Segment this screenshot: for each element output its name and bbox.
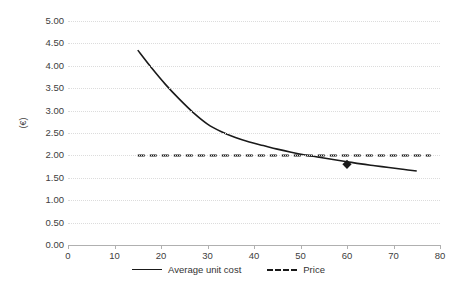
gridline (68, 178, 440, 179)
x-axis-tick-label: 60 (332, 251, 362, 261)
plot-area (68, 21, 440, 245)
y-axis-tick-label: 0.00 (18, 240, 64, 250)
x-axis-tick-label: 80 (425, 251, 455, 261)
x-axis-tick-mark (301, 245, 302, 249)
gridline (68, 155, 440, 156)
gridline (68, 21, 440, 22)
y-axis-tick-label: 1.00 (18, 195, 64, 205)
gridline (68, 66, 440, 67)
legend-swatch (132, 269, 162, 270)
y-axis-tick-label: 4.00 (18, 61, 64, 71)
x-axis-tick-label: 0 (53, 251, 83, 261)
x-axis-tick-mark (440, 245, 441, 249)
y-axis-tick-labels: 0.000.501.001.502.002.503.003.504.004.50… (0, 0, 64, 289)
gridline (68, 43, 440, 44)
x-axis-tick-mark (115, 245, 116, 249)
x-axis-tick-label: 50 (286, 251, 316, 261)
x-axis-tick-label: 10 (100, 251, 130, 261)
legend-label: Average unit cost (168, 264, 241, 275)
legend-label: Price (303, 264, 325, 275)
y-axis-tick-label: 3.00 (18, 106, 64, 116)
x-axis-tick-mark (161, 245, 162, 249)
gridline (68, 223, 440, 224)
y-axis-tick-label: 2.00 (18, 150, 64, 160)
chart-container: (€) 0.000.501.001.502.002.503.003.504.00… (0, 0, 457, 289)
y-axis-tick-label: 1.50 (18, 173, 64, 183)
x-axis-tick-label: 30 (193, 251, 223, 261)
y-axis-tick-label: 2.50 (18, 128, 64, 138)
legend-entry: Average unit cost (132, 264, 241, 275)
gridline (68, 111, 440, 112)
legend-swatch (267, 269, 297, 271)
legend-entry: Price (267, 264, 325, 275)
x-axis-tick-mark (347, 245, 348, 249)
y-axis-tick-label: 5.00 (18, 16, 64, 26)
x-axis-tick-mark (68, 245, 69, 249)
x-axis-tick-mark (208, 245, 209, 249)
gridline (68, 200, 440, 201)
gridline (68, 88, 440, 89)
y-axis-tick-label: 4.50 (18, 38, 64, 48)
x-axis-tick-mark (394, 245, 395, 249)
x-axis-tick-mark (254, 245, 255, 249)
chart-legend: Average unit costPrice (0, 264, 457, 275)
x-axis-tick-label: 70 (379, 251, 409, 261)
x-axis-tick-label: 20 (146, 251, 176, 261)
gridline (68, 133, 440, 134)
x-axis-tick-marks (68, 245, 440, 249)
x-axis-tick-label: 40 (239, 251, 269, 261)
y-axis-tick-label: 0.50 (18, 218, 64, 228)
y-axis-tick-label: 3.50 (18, 83, 64, 93)
